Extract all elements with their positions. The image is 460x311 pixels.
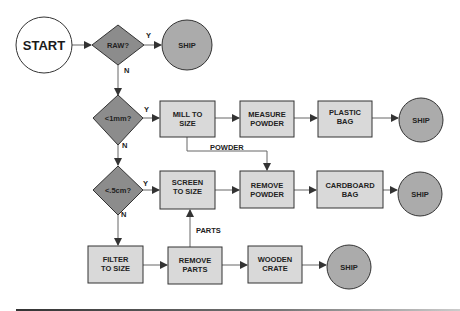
process-cardboard-line2: BAG	[342, 190, 359, 199]
process-remove-powder: REMOVE POWDER	[240, 171, 294, 208]
process-removeparts-line2: PARTS	[183, 265, 208, 274]
process-measure-line2: POWDER	[250, 119, 284, 128]
process-mill-to-size: MILL TO SIZE	[160, 101, 215, 137]
process-plastic-line2: BAG	[337, 117, 354, 126]
process-mill-line2: SIZE	[179, 119, 196, 128]
node-ship-3-label: SHIP	[411, 190, 429, 199]
label-parts: PARTS	[196, 226, 221, 235]
node-ship-4: SHIP	[327, 245, 371, 289]
edge-mill-removepowder	[187, 137, 267, 170]
process-wooden-line2: CRATE	[262, 264, 287, 273]
flowchart: Y N Y N Y N POWDER PARTS START RAW? SHIP…	[0, 0, 460, 311]
node-ship-4-label: SHIP	[340, 263, 358, 272]
process-removepowder-line1: REMOVE	[251, 181, 284, 190]
node-ship-3: SHIP	[398, 172, 442, 216]
process-plastic-bag: PLASTIC BAG	[318, 101, 372, 137]
process-removeparts-line1: REMOVE	[179, 256, 212, 265]
label-lt1mm-no: N	[122, 141, 127, 150]
process-wooden-crate: WOODEN CRATE	[248, 246, 302, 283]
process-removepowder-line2: POWDER	[250, 190, 284, 199]
decision-raw: RAW?	[92, 25, 144, 65]
process-cardboard-bag: CARDBOARD BAG	[317, 171, 383, 208]
process-remove-parts: REMOVE PARTS	[168, 247, 222, 284]
node-ship-2: SHIP	[399, 98, 443, 142]
node-start: START	[16, 17, 72, 73]
node-ship-1: SHIP	[162, 20, 212, 70]
label-lt5cm-yes: Y	[143, 179, 148, 188]
process-plastic-line1: PLASTIC	[329, 108, 362, 117]
decision-lt1mm-label: <1mm?	[105, 114, 132, 123]
process-screen-line2: TO SIZE	[173, 187, 202, 196]
process-screen-to-size: SCREEN TO SIZE	[160, 171, 215, 209]
process-screen-line1: SCREEN	[172, 178, 203, 187]
label-raw-no: N	[124, 66, 129, 75]
connectors	[72, 45, 398, 265]
node-ship-1-label: SHIP	[178, 41, 196, 50]
process-filter-line1: FILTER	[103, 255, 129, 264]
process-filter-line2: TO SIZE	[101, 264, 130, 273]
decision-lt1mm: <1mm?	[93, 95, 143, 145]
process-mill-line1: MILL TO	[173, 110, 203, 119]
process-measure-powder: MEASURE POWDER	[240, 101, 294, 137]
process-cardboard-line1: CARDBOARD	[325, 181, 375, 190]
process-measure-line1: MEASURE	[248, 110, 286, 119]
decision-raw-label: RAW?	[107, 41, 129, 50]
node-ship-2-label: SHIP	[412, 116, 430, 125]
node-start-label: START	[23, 38, 65, 53]
label-raw-yes: Y	[146, 31, 151, 40]
process-filter-to-size: FILTER TO SIZE	[88, 246, 143, 283]
process-wooden-line1: WOODEN	[258, 255, 293, 264]
label-powder: POWDER	[210, 143, 244, 152]
label-lt1mm-yes: Y	[144, 105, 149, 114]
decision-lt5cm-label: <.5cm?	[105, 186, 131, 195]
decision-lt5cm: <.5cm?	[93, 166, 143, 215]
